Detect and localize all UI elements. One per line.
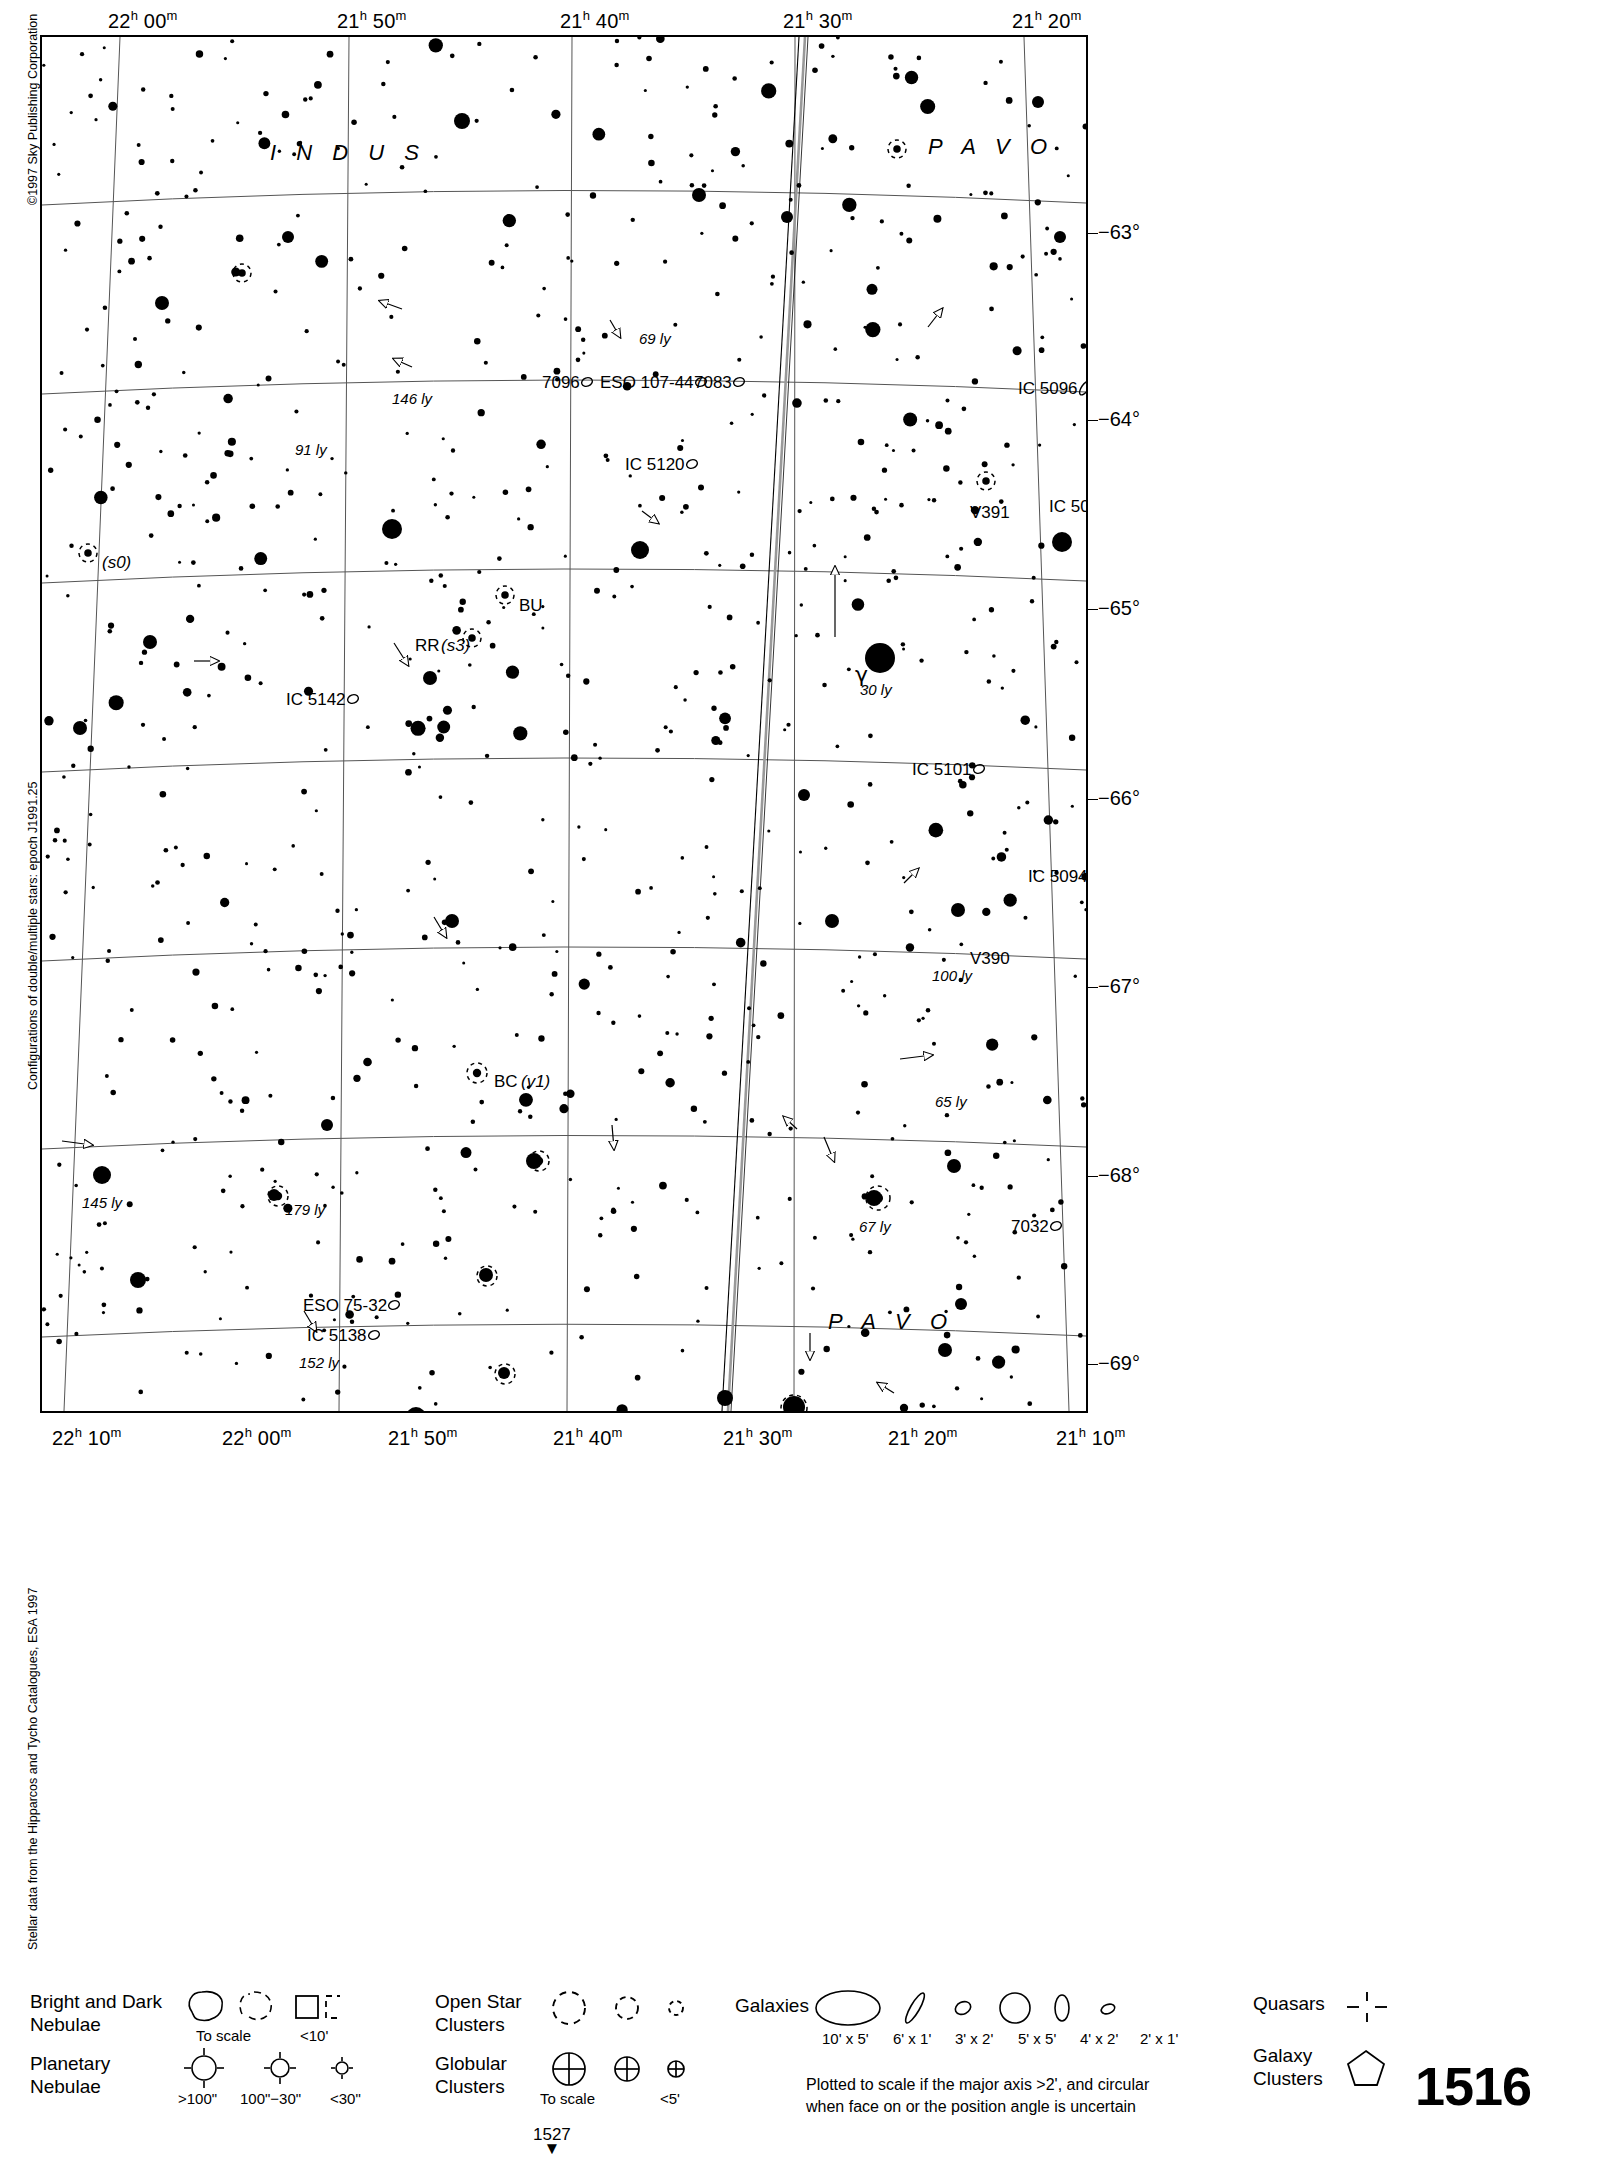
star-label-5: V390 — [970, 950, 1010, 967]
ra-tick-bottom-4: 21h 30m — [723, 1425, 793, 1450]
ra-tick-top-4: 21h 20m — [1012, 8, 1082, 33]
star-chart-page: ©1997 Sky Publishing Corporation Configu… — [0, 0, 1604, 2180]
legend-nebulae-label: Bright and Dark Nebulae — [30, 1990, 162, 2036]
star-label-4: V391 — [970, 504, 1010, 521]
deep-sky-label-6: IC 5142 — [286, 691, 346, 708]
ra-tick-top-1: 21h 50m — [337, 8, 407, 33]
deep-sky-label-3: IC 5096 — [1018, 380, 1078, 397]
ra-tick-bottom-6: 21h 10m — [1056, 1425, 1126, 1450]
deep-sky-label-0: 7096 — [542, 374, 580, 391]
star-label-0: (s0) — [102, 554, 131, 571]
dec-tick-mark-3 — [1088, 799, 1098, 800]
star-label-1: BU — [519, 597, 543, 614]
legend-planetary-label: Planetary Nebulae — [30, 2052, 110, 2098]
distance-label-3: 30 ly — [860, 682, 892, 697]
planetary-nebula-symbols — [176, 2048, 376, 2092]
down-arrow-icon: ▼ — [533, 2143, 571, 2155]
dec-tick-mark-6 — [1088, 1364, 1098, 1365]
ra-tick-top-0: 22h 00m — [108, 8, 178, 33]
dec-tick-mark-1 — [1088, 420, 1098, 421]
star-label-3: (s3) — [441, 637, 470, 654]
legend-galaxy-size-1: 6' x 1' — [893, 2030, 931, 2047]
deep-sky-label-5: IC 5092 — [1049, 498, 1088, 515]
legend-open-cluster-label: Open Star Clusters — [435, 1990, 522, 2036]
adjacent-chart-marker: 1527 ▼ — [533, 2125, 571, 2155]
deep-sky-label-4: IC 5120 — [625, 456, 685, 473]
legend-planetary-small: <30" — [330, 2090, 361, 2107]
deep-sky-label-8: IC 5094 — [1028, 868, 1088, 885]
legend-globular-label: Globular Clusters — [435, 2052, 507, 2098]
legend-galaxy-size-0: 10' x 5' — [822, 2030, 869, 2047]
legend-galaxies-label: Galaxies — [735, 1994, 809, 2017]
ra-tick-bottom-1: 22h 00m — [222, 1425, 292, 1450]
legend-globular-to-scale: To scale — [540, 2090, 595, 2107]
star-label-7: (v1) — [521, 1073, 550, 1090]
distance-label-4: 100 ly — [932, 968, 972, 983]
deep-sky-label-9: 7032 — [1011, 1218, 1049, 1235]
deep-sky-label-7: IC 5101 — [912, 761, 972, 778]
legend-galaxy-size-2: 3' x 2' — [955, 2030, 993, 2047]
distance-label-8: 67 ly — [859, 1219, 891, 1234]
dec-tick-0: −63° — [1098, 221, 1140, 244]
legend-globular-small: <5' — [660, 2090, 680, 2107]
constellation-name-0: I N D U S — [270, 140, 426, 166]
galaxy-symbols — [810, 1986, 1140, 2030]
distance-label-2: 91 ly — [295, 442, 327, 457]
legend-galaxy-size-4: 4' x 2' — [1080, 2030, 1118, 2047]
distance-label-7: 179 ly — [285, 1202, 325, 1217]
legend-nebulae-to-scale: To scale — [196, 2027, 251, 2044]
legend-galaxy-clusters-label: Galaxy Clusters — [1253, 2044, 1323, 2090]
legend-planetary-large: >100" — [178, 2090, 217, 2107]
nebula-symbols — [180, 1984, 340, 2032]
legend-galaxy-note: Plotted to scale if the major axis >2', … — [806, 2074, 1149, 2118]
ra-tick-bottom-2: 21h 50m — [388, 1425, 458, 1450]
deep-sky-label-10: ESO 75-32 — [303, 1297, 387, 1314]
dec-tick-3: −66° — [1098, 787, 1140, 810]
legend-nebulae-small: <10' — [300, 2027, 328, 2044]
ra-tick-bottom-0: 22h 10m — [52, 1425, 122, 1450]
epoch-caption: Configurations of double/multiple stars:… — [26, 781, 40, 1090]
galaxy-cluster-symbol — [1345, 2046, 1389, 2090]
dec-tick-mark-5 — [1088, 1176, 1098, 1177]
ra-tick-bottom-3: 21h 40m — [553, 1425, 623, 1450]
chart-number: 1516 — [1415, 2055, 1531, 2117]
legend-galaxy-size-5: 2' x 1' — [1140, 2030, 1178, 2047]
open-cluster-symbols — [545, 1986, 705, 2030]
quasar-symbol — [1345, 1990, 1389, 2024]
distance-label-6: 145 ly — [82, 1195, 122, 1210]
constellation-name-1: P A V O — [928, 134, 1054, 160]
star-label-6: BC — [494, 1073, 518, 1090]
dec-tick-mark-2 — [1088, 609, 1098, 610]
legend-planetary-mid: 100"−30" — [240, 2090, 301, 2107]
source-caption: Stellar data from the Hipparcos and Tych… — [26, 1588, 40, 1951]
distance-label-0: 69 ly — [639, 331, 671, 346]
deep-sky-label-11: IC 5138 — [307, 1327, 367, 1344]
map-text-layer: 7096ESO 107-447083IC 5096IC 5120IC 5092I… — [42, 37, 1086, 1411]
ra-tick-top-3: 21h 30m — [783, 8, 853, 33]
distance-label-5: 65 ly — [935, 1094, 967, 1109]
dec-tick-mark-4 — [1088, 987, 1098, 988]
legend-galaxy-size-3: 5' x 5' — [1018, 2030, 1056, 2047]
deep-sky-label-1: ESO 107-44 — [600, 374, 694, 391]
dec-tick-6: −69° — [1098, 1352, 1140, 1375]
copyright-caption: ©1997 Sky Publishing Corporation — [26, 14, 40, 205]
globular-cluster-symbols — [545, 2048, 705, 2092]
dec-tick-5: −68° — [1098, 1164, 1140, 1187]
ra-tick-bottom-5: 21h 20m — [888, 1425, 958, 1450]
sky-map[interactable]: 7096ESO 107-447083IC 5096IC 5120IC 5092I… — [40, 35, 1088, 1413]
legend-quasars-label: Quasars — [1253, 1992, 1325, 2015]
constellation-name-2: P A V O — [828, 1309, 954, 1335]
star-label-2: RR — [415, 637, 440, 654]
deep-sky-label-2: 7083 — [694, 374, 732, 391]
distance-label-9: 152 ly — [299, 1355, 339, 1370]
distance-label-1: 146 ly — [392, 391, 432, 406]
chart-legend: Bright and Dark Nebulae To scale <10' Pl… — [0, 1980, 1604, 2180]
dec-tick-2: −65° — [1098, 597, 1140, 620]
ra-tick-top-2: 21h 40m — [560, 8, 630, 33]
dec-tick-mark-0 — [1088, 233, 1098, 234]
dec-tick-4: −67° — [1098, 975, 1140, 998]
dec-tick-1: −64° — [1098, 408, 1140, 431]
